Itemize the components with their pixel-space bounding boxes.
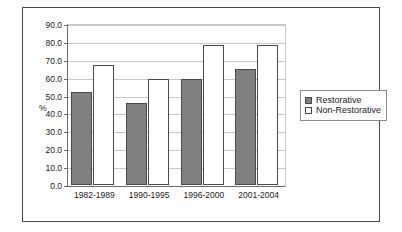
y-axis-tick bbox=[64, 43, 68, 44]
y-axis-tick-label: 70.0 bbox=[45, 57, 62, 66]
bar-non-restorative bbox=[203, 45, 224, 185]
x-axis-labels: 1982-19891990-19951996-20002001-2004 bbox=[67, 191, 286, 207]
legend-swatch-icon bbox=[305, 107, 312, 114]
plot-area: 90.080.070.060.050.040.030.020.010.00.0 bbox=[67, 24, 286, 187]
legend-item[interactable]: Non-Restorative bbox=[305, 106, 381, 115]
bar-non-restorative bbox=[257, 45, 278, 185]
y-axis-tick-label: 0.0 bbox=[50, 182, 62, 191]
bar-restorative bbox=[181, 79, 202, 185]
y-axis-tick bbox=[64, 25, 68, 26]
chart-frame: % 90.080.070.060.050.040.030.020.010.00.… bbox=[22, 7, 380, 222]
bar-restorative bbox=[71, 92, 92, 185]
chart-legend: RestorativeNon-Restorative bbox=[300, 90, 387, 121]
y-axis-tick-label: 10.0 bbox=[45, 164, 62, 173]
bar-group bbox=[69, 26, 124, 185]
legend-label: Restorative bbox=[316, 96, 362, 105]
y-axis-tick-label: 80.0 bbox=[45, 39, 62, 48]
y-axis-tick-label: 90.0 bbox=[45, 21, 62, 30]
bars-layer bbox=[69, 26, 285, 185]
y-axis-tick-label: 60.0 bbox=[45, 74, 62, 83]
x-axis-tick-label: 2001-2004 bbox=[231, 191, 286, 200]
x-axis-tick-label: 1990-1995 bbox=[122, 191, 177, 200]
x-axis-tick-label: 1996-2000 bbox=[177, 191, 232, 200]
legend-item[interactable]: Restorative bbox=[305, 96, 381, 105]
bar-group bbox=[179, 26, 234, 185]
y-axis-tick bbox=[64, 79, 68, 80]
y-axis-tick bbox=[64, 61, 68, 62]
x-axis-tick-label: 1982-1989 bbox=[67, 191, 122, 200]
y-axis-tick-label: 50.0 bbox=[45, 92, 62, 101]
legend-label: Non-Restorative bbox=[316, 106, 381, 115]
bar-restorative bbox=[126, 103, 147, 185]
y-axis-tick-label: 30.0 bbox=[45, 128, 62, 137]
bar-group bbox=[233, 26, 288, 185]
y-axis-tick bbox=[64, 114, 68, 115]
bar-non-restorative bbox=[148, 79, 169, 185]
bar-group bbox=[124, 26, 179, 185]
y-axis-tick-label: 40.0 bbox=[45, 110, 62, 119]
y-axis-tick bbox=[64, 168, 68, 169]
y-axis-tick bbox=[64, 186, 68, 187]
bar-restorative bbox=[235, 69, 256, 185]
bar-non-restorative bbox=[93, 65, 114, 185]
y-axis-tick bbox=[64, 97, 68, 98]
legend-swatch-icon bbox=[305, 97, 312, 104]
y-axis-tick bbox=[64, 132, 68, 133]
y-axis-tick-label: 20.0 bbox=[45, 146, 62, 155]
y-axis-tick bbox=[64, 150, 68, 151]
